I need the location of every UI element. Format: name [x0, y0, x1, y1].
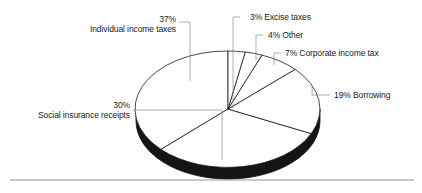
callout-individual-income-taxes-pct: 37%	[56, 14, 176, 24]
callout-individual-income-taxes-name: Individual income taxes	[56, 24, 176, 34]
callout-social-insurance-receipts-pct: 30%	[8, 100, 130, 110]
callout-borrowing: 19% Borrowing	[334, 90, 390, 100]
callout-other: 4% Other	[268, 30, 303, 40]
callout-social-insurance-receipts-name: Social insurance receipts	[8, 110, 130, 120]
callout-social-insurance-receipts: 30% Social insurance receipts	[8, 100, 130, 120]
callout-individual-income-taxes: 37% Individual income taxes	[56, 14, 176, 34]
callout-excise-taxes: 3% Excise taxes	[250, 12, 311, 22]
pie-slices	[135, 51, 320, 167]
pie-chart-figure: 37% Individual income taxes 30% Social i…	[0, 0, 422, 193]
callout-corporate-income-tax: 7% Corporate income tax	[285, 48, 379, 58]
